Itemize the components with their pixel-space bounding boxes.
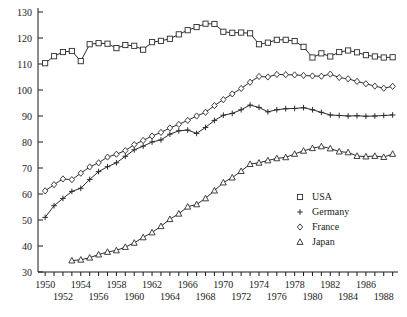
- marker-plus-germany: [319, 110, 325, 116]
- marker-diamond-france: [230, 91, 235, 97]
- marker-triangle-legend: [297, 239, 303, 245]
- marker-square-usa: [194, 24, 199, 29]
- marker-square-usa: [185, 28, 190, 33]
- marker-square-usa: [390, 55, 395, 60]
- marker-plus-germany: [345, 113, 351, 119]
- x-axis-tick-label: 1952: [53, 291, 73, 302]
- marker-plus-germany: [310, 107, 316, 113]
- marker-square-usa: [176, 32, 181, 37]
- x-axis-tick-label: 1964: [160, 291, 180, 302]
- marker-triangle-japan: [167, 216, 173, 222]
- marker-diamond-france: [42, 188, 47, 194]
- legend-label-japan: Japan: [312, 236, 335, 247]
- marker-diamond-france: [345, 76, 350, 82]
- marker-square-usa: [345, 48, 350, 53]
- marker-square-usa: [167, 36, 172, 41]
- marker-diamond-france: [292, 72, 297, 78]
- marker-square-usa: [337, 49, 342, 54]
- marker-square-usa: [96, 41, 101, 46]
- marker-plus-germany: [363, 113, 369, 119]
- marker-diamond-france: [132, 142, 137, 148]
- marker-triangle-japan: [149, 229, 155, 235]
- marker-square-usa: [283, 37, 288, 42]
- marker-square-usa: [274, 37, 279, 42]
- marker-plus-germany: [185, 127, 191, 133]
- marker-plus-germany: [283, 106, 289, 112]
- marker-plus-germany: [381, 113, 387, 119]
- legend-item-japan[interactable]: Japan: [297, 236, 335, 247]
- series-lines: [42, 21, 395, 263]
- marker-square-usa: [221, 29, 226, 34]
- marker-square-usa: [69, 48, 74, 53]
- x-axis-tick-label: 1976: [267, 291, 287, 302]
- marker-diamond-france: [78, 170, 83, 176]
- x-axis-tick-label: 1980: [302, 291, 322, 302]
- marker-diamond-france: [123, 147, 128, 153]
- legend-label-france: France: [312, 221, 340, 232]
- marker-triangle-japan: [176, 211, 182, 217]
- legend-label-usa: USA: [312, 191, 333, 202]
- x-axis-tick-label: 1974: [249, 279, 269, 290]
- x-axis-tick-label: 1962: [142, 279, 162, 290]
- marker-diamond-france: [390, 83, 395, 89]
- x-axis-tick-label: 1956: [89, 291, 109, 302]
- marker-diamond-france: [105, 154, 110, 160]
- marker-square-usa: [363, 53, 368, 58]
- marker-diamond-france: [96, 160, 101, 166]
- y-axis-tick-label: 40: [22, 241, 32, 252]
- marker-plus-germany: [390, 112, 396, 118]
- legend-item-germany[interactable]: Germany: [297, 206, 349, 217]
- x-axis-tick-label: 1988: [374, 291, 394, 302]
- marker-square-usa: [381, 55, 386, 60]
- legend-item-usa[interactable]: USA: [297, 191, 332, 202]
- legend-label-germany: Germany: [312, 206, 349, 217]
- marker-square-usa: [310, 55, 315, 60]
- marker-diamond-legend: [297, 224, 302, 230]
- legend-item-france[interactable]: France: [297, 221, 339, 232]
- marker-diamond-france: [274, 71, 279, 77]
- marker-diamond-france: [194, 113, 199, 119]
- x-axis-tick-label: 1986: [356, 279, 376, 290]
- x-axis-tick-label: 1958: [106, 279, 126, 290]
- marker-diamond-france: [247, 79, 252, 85]
- marker-plus-germany: [247, 102, 253, 108]
- marker-square-usa: [328, 54, 333, 59]
- marker-triangle-japan: [390, 151, 396, 157]
- x-axis-tick-label: 1978: [285, 279, 305, 290]
- marker-triangle-japan: [158, 223, 164, 229]
- marker-square-usa: [60, 49, 65, 54]
- x-axis-tick-label: 1966: [178, 279, 198, 290]
- y-axis-tick-label: 90: [22, 111, 32, 122]
- marker-triangle-japan: [140, 234, 146, 240]
- marker-square-usa: [123, 42, 128, 47]
- marker-square-usa: [292, 39, 297, 44]
- series-france: [42, 71, 395, 194]
- marker-square-usa: [87, 42, 92, 47]
- marker-diamond-france: [328, 71, 333, 77]
- marker-diamond-france: [167, 125, 172, 131]
- marker-triangle-japan: [220, 179, 226, 185]
- marker-square-usa: [301, 44, 306, 49]
- marker-diamond-france: [310, 73, 315, 79]
- marker-plus-germany: [256, 105, 262, 111]
- marker-diamond-france: [149, 133, 154, 139]
- marker-plus-germany: [194, 131, 200, 137]
- marker-triangle-japan: [238, 168, 244, 174]
- marker-diamond-france: [256, 73, 261, 79]
- marker-diamond-france: [301, 72, 306, 78]
- marker-plus-germany: [238, 107, 244, 113]
- marker-diamond-france: [185, 117, 190, 123]
- marker-diamond-france: [203, 109, 208, 115]
- marker-plus-germany: [354, 113, 360, 119]
- marker-plus-germany: [292, 106, 298, 112]
- marker-square-usa: [105, 41, 110, 46]
- marker-plus-germany: [229, 111, 235, 117]
- y-axis-tick-label: 70: [22, 163, 32, 174]
- x-axis-tick-label: 1972: [231, 291, 251, 302]
- marker-square-usa: [212, 21, 217, 26]
- marker-diamond-france: [158, 129, 163, 135]
- marker-diamond-france: [283, 72, 288, 78]
- marker-diamond-france: [319, 73, 324, 79]
- marker-square-usa: [158, 38, 163, 43]
- marker-plus-germany: [149, 139, 155, 145]
